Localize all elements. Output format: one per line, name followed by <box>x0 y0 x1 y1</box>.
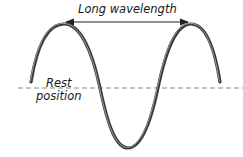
rest-label-line2: position <box>36 90 82 103</box>
wavelength-diagram: Long wavelength Rest position <box>0 0 243 157</box>
wavelength-label: Long wavelength <box>78 4 177 16</box>
rest-position-label: Rest position <box>36 77 82 103</box>
